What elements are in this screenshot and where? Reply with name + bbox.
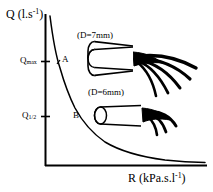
y-tick-qhalf-subscript: 1/2	[29, 114, 37, 120]
y-axis-title-units: (l.s	[18, 7, 33, 21]
y-axis-title-close: )	[39, 7, 43, 21]
flow-resistance-curve	[50, 16, 205, 163]
x-axis-title-close: )	[182, 171, 186, 185]
axes-group	[45, 14, 207, 166]
curve-path	[50, 16, 205, 163]
nozzle-6mm-graphic	[95, 106, 177, 136]
point-b-label: B	[73, 111, 79, 120]
point-a-label: A	[62, 55, 69, 64]
nozzle-6mm-jets	[142, 108, 176, 135]
flow-resistance-figure: Q(l.s-1) Qmax Q1/2 A B (D=7mm) (D=6mm) R…	[0, 0, 213, 192]
y-axis-title: Q(l.s-1)	[6, 8, 43, 20]
nozzle-7mm-label: (D=7mm)	[77, 31, 113, 40]
y-tick-label-qmax: Qmax	[20, 56, 37, 65]
x-axis-title-exponent: -1	[175, 171, 182, 180]
nozzle-7mm-cover	[95, 47, 134, 70]
y-tick-qmax-subscript: max	[27, 59, 37, 65]
x-axis-title-symbol: R	[128, 171, 136, 185]
nozzle-6mm-label: (D=6mm)	[88, 88, 124, 97]
y-axis-title-symbol: Q	[6, 7, 15, 21]
nozzle-7mm-jets	[133, 52, 196, 96]
x-axis-title-units: (kPa.s.l	[139, 171, 175, 185]
y-tick-label-qhalf: Q1/2	[22, 111, 36, 120]
x-axis-title: R(kPa.s.l-1)	[128, 172, 186, 184]
